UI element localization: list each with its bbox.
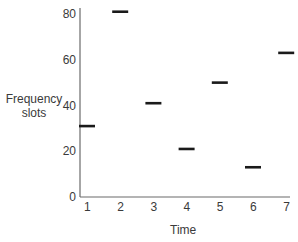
y-tick-label: 40 xyxy=(63,99,76,113)
x-tick-label: 2 xyxy=(117,200,124,214)
x-tick-label: 4 xyxy=(184,200,191,214)
y-tick-label: 0 xyxy=(69,190,76,204)
y-tick-label: 60 xyxy=(63,53,76,67)
x-tick-label: 3 xyxy=(150,200,157,214)
x-axis-label: Time xyxy=(170,223,196,237)
y-axis-label: Frequency slots xyxy=(2,92,66,120)
x-tick-label: 5 xyxy=(217,200,224,214)
y-axis-label-line1: Frequency xyxy=(2,92,66,106)
x-tick-label: 6 xyxy=(250,200,257,214)
y-tick-label: 80 xyxy=(63,7,76,21)
x-tick-label: 1 xyxy=(84,200,91,214)
y-tick-label: 20 xyxy=(63,144,76,158)
y-axis-label-line2: slots xyxy=(2,106,66,120)
x-tick-label: 7 xyxy=(283,200,290,214)
